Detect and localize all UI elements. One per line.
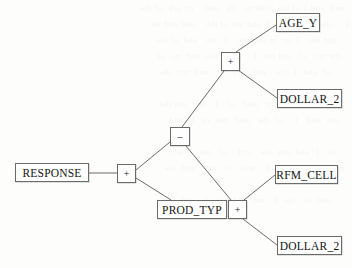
edge-plus-upper-to-age-y	[236, 25, 276, 52]
edge-minus-to-plus-lower	[186, 146, 231, 200]
edge-plus-root-to-prod-typ	[136, 178, 171, 200]
edge-plus-lower-to-rfm-cell	[244, 175, 275, 200]
node-prod-typ[interactable]: PROD_TYP	[157, 200, 227, 219]
edge-minus-to-plus-upper	[182, 71, 224, 127]
node-response[interactable]: RESPONSE	[15, 163, 89, 182]
operator-node-minus[interactable]: –	[170, 127, 190, 146]
node-response-label: RESPONSE	[22, 167, 81, 179]
node-prod-typ-label: PROD_TYP	[162, 204, 222, 216]
node-dollar-2-upper[interactable]: DOLLAR_2	[277, 89, 342, 108]
operator-node-plus-upper-label: +	[228, 56, 234, 66]
operator-node-plus-root[interactable]: +	[117, 164, 136, 183]
operator-node-plus-root-label: +	[124, 168, 130, 178]
node-rfm-cell-label: RFM_CELL	[276, 169, 336, 181]
node-dollar-2-lower-label: DOLLAR_2	[280, 240, 340, 252]
operator-node-plus-upper[interactable]: +	[221, 52, 240, 71]
operator-node-plus-lower-label: +	[235, 204, 241, 214]
node-rfm-cell[interactable]: RFM_CELL	[275, 165, 338, 184]
edge-plus-upper-to-dollar-2-upper	[238, 70, 277, 98]
node-age-y-label: AGE_Y	[279, 17, 318, 29]
edge-plus-root-to-minus	[136, 142, 170, 170]
diagram-canvas: and and 1 of the 1000 no lik and no orb …	[0, 0, 352, 268]
operator-node-minus-label: –	[178, 131, 183, 141]
node-dollar-2-upper-label: DOLLAR_2	[280, 93, 340, 105]
edge-plus-lower-to-dollar-2-lower	[243, 219, 277, 245]
node-dollar-2-lower[interactable]: DOLLAR_2	[277, 236, 342, 255]
operator-node-plus-lower[interactable]: +	[228, 200, 247, 219]
node-age-y[interactable]: AGE_Y	[276, 13, 320, 32]
